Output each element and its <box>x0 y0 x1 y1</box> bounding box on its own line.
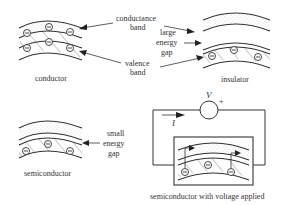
valence-band-annotation: valence band <box>79 50 204 77</box>
semiconductor-voltage-panel: V + I semiconductor with voltage applied <box>150 90 265 201</box>
conductance-band-label-1: conductance <box>116 14 156 23</box>
small-energy-gap-annotation: small energy gap <box>82 129 125 158</box>
valence-band-label-2: band <box>130 68 146 77</box>
arrow-head-icon <box>82 140 89 146</box>
electron-icon <box>67 45 74 52</box>
electron-icon <box>205 162 212 169</box>
electron-icon <box>23 148 30 155</box>
conductor-panel: conductor <box>19 21 82 83</box>
small-gap-label-3: gap <box>108 149 120 158</box>
electron-icon <box>24 45 31 52</box>
semiconductor-caption: semiconductor <box>24 169 71 178</box>
arrow-head-icon <box>187 28 195 34</box>
electron-icon <box>24 30 31 37</box>
conductance-band-annotation: conductance band <box>79 14 195 34</box>
large-energy-gap-annotation: large energy gap <box>156 28 202 57</box>
semiconductor-voltage-caption: semiconductor with voltage applied <box>150 192 264 201</box>
electron-icon <box>67 29 74 36</box>
large-gap-label-2: energy <box>156 38 178 47</box>
electron-icon <box>231 47 238 54</box>
small-gap-label-2: energy <box>103 139 125 148</box>
electron-icon <box>255 54 262 61</box>
valence-band-label-1: valence <box>125 59 150 68</box>
polarity-label: + <box>219 97 224 106</box>
conduction-band-fill <box>203 13 270 31</box>
electron-icon <box>46 24 53 31</box>
large-gap-label-3: gap <box>161 48 173 57</box>
large-gap-label-1: large <box>160 28 176 37</box>
electron-icon <box>45 141 52 148</box>
insulator-caption: insulator <box>221 75 249 84</box>
conductance-band-label-2: band <box>130 23 146 32</box>
arrow-head-icon <box>79 50 87 56</box>
electron-icon <box>46 39 53 46</box>
current-arrow-icon <box>176 112 185 118</box>
arrow-head-icon <box>195 40 202 46</box>
semiconductor-panel: semiconductor <box>19 121 82 178</box>
conductor-caption: conductor <box>35 74 67 83</box>
insulator-panel: insulator <box>203 13 270 84</box>
arrow-line <box>160 58 200 67</box>
electron-icon <box>182 169 189 176</box>
voltage-source-icon <box>200 101 218 119</box>
band-theory-diagram: conductor conductance band valence band … <box>0 0 284 205</box>
current-label: I <box>171 118 176 128</box>
electron-icon <box>209 53 216 60</box>
electron-icon <box>67 148 74 155</box>
voltage-label: V <box>206 90 213 100</box>
small-gap-label-1: small <box>107 129 125 138</box>
arrow-line <box>82 52 121 63</box>
electron-icon <box>228 169 235 176</box>
arrow-head-icon <box>196 55 204 61</box>
